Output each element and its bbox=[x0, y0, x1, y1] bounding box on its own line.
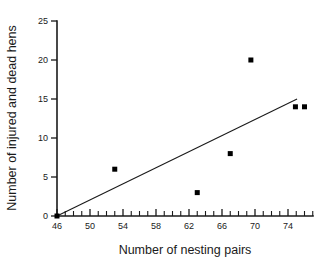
x-tick-label: 54 bbox=[118, 221, 128, 231]
data-point bbox=[228, 151, 233, 156]
chart-canvas: 0510152025 4650545862667074 Number of ne… bbox=[0, 0, 323, 261]
x-tick-label: 58 bbox=[151, 221, 161, 231]
y-tick-label: 25 bbox=[38, 16, 48, 26]
y-tick-label: 20 bbox=[38, 55, 48, 65]
data-point bbox=[248, 58, 253, 63]
x-axis-title: Number of nesting pairs bbox=[119, 243, 252, 257]
data-point bbox=[195, 190, 200, 195]
y-tick-label: 5 bbox=[43, 172, 48, 182]
data-point bbox=[112, 167, 117, 172]
y-axis-title: Number of injured and dead hens bbox=[5, 25, 19, 211]
x-tick-label: 74 bbox=[283, 221, 293, 231]
x-tick-label: 66 bbox=[217, 221, 227, 231]
y-tick-label: 15 bbox=[38, 94, 48, 104]
data-point bbox=[55, 214, 60, 219]
scatter-plot-figure: 0510152025 4650545862667074 Number of ne… bbox=[0, 0, 323, 261]
x-tick-label: 70 bbox=[250, 221, 260, 231]
data-point bbox=[293, 104, 298, 109]
data-point bbox=[302, 104, 307, 109]
y-tick-label: 10 bbox=[38, 133, 48, 143]
x-tick-label: 50 bbox=[85, 221, 95, 231]
x-tick-label: 62 bbox=[184, 221, 194, 231]
x-tick-label: 46 bbox=[52, 221, 62, 231]
trend-line bbox=[57, 99, 297, 216]
y-axis-ticks: 0510152025 bbox=[38, 16, 57, 221]
y-tick-label: 0 bbox=[43, 211, 48, 221]
data-point-group bbox=[55, 58, 308, 219]
